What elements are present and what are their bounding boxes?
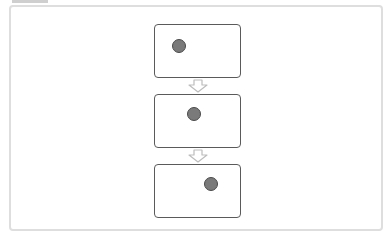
panel-step-1	[154, 24, 241, 78]
panel-step-2	[154, 94, 241, 148]
hollow-down-arrow-icon	[187, 149, 209, 163]
panel-step-3	[154, 164, 241, 218]
circle-icon	[204, 177, 218, 191]
hollow-down-arrow-icon	[187, 79, 209, 93]
circle-icon	[187, 107, 201, 121]
circle-icon	[172, 39, 186, 53]
tab-indicator	[12, 0, 48, 3]
